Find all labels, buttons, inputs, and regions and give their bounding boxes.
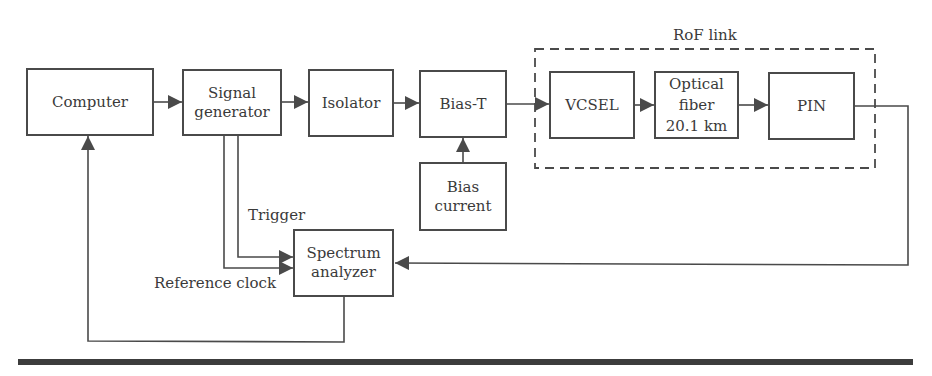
computer-label: Computer	[52, 93, 128, 112]
computer-block: Computer	[26, 68, 154, 136]
trigger-label: Trigger	[248, 206, 305, 224]
signal-generator-label: Signal generator	[194, 84, 269, 122]
pin-label: PIN	[797, 97, 826, 116]
bias-t-block: Bias-T	[419, 70, 507, 138]
optical-fiber-block: Optical fiber 20.1 km	[654, 71, 739, 139]
bias-current-label: Bias current	[435, 178, 492, 216]
bias-current-block: Bias current	[419, 162, 507, 231]
reference-clock-label: Reference clock	[154, 274, 276, 292]
spectrum-analyzer-block: Spectrum analyzer	[293, 229, 394, 297]
spectrum-analyzer-label: Spectrum analyzer	[306, 244, 380, 282]
isolator-block: Isolator	[308, 69, 394, 137]
bottom-rule	[18, 359, 913, 365]
bias-t-label: Bias-T	[440, 95, 487, 114]
optical-fiber-label: Optical fiber 20.1 km	[666, 74, 727, 137]
vcsel-label: VCSEL	[565, 96, 619, 115]
signal-generator-block: Signal generator	[182, 69, 282, 136]
isolator-label: Isolator	[322, 94, 381, 113]
pin-block: PIN	[768, 72, 855, 140]
rof-link-label: RoF link	[673, 26, 737, 44]
vcsel-block: VCSEL	[549, 71, 635, 139]
